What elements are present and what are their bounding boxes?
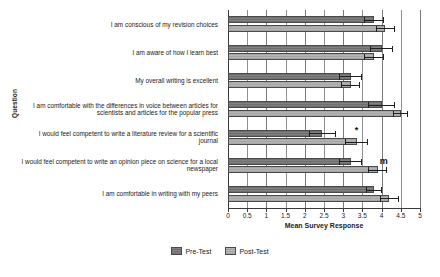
legend-swatch-post-test [225, 247, 236, 255]
error-bar [370, 48, 393, 49]
bar-pre-test [228, 186, 374, 193]
bar-post-test [228, 195, 389, 202]
x-tick-label: 5 [408, 212, 432, 219]
error-bar [309, 133, 336, 134]
legend-swatch-pre-test [171, 247, 182, 255]
figure-caption [6, 268, 434, 277]
bar-pre-test [228, 73, 351, 80]
bar-post-test [228, 138, 357, 145]
category-label: I would feel competent to write a litera… [18, 130, 218, 145]
error-bar [368, 170, 387, 171]
error-bar [368, 105, 395, 106]
legend-item-post-test[interactable]: Post-Test [225, 247, 268, 255]
bar-post-test [228, 81, 351, 88]
legend-label-pre-test: Pre-Test [185, 248, 211, 255]
category-label: I would feel competent to write an opini… [18, 158, 218, 173]
annotation-asterisk: * [355, 126, 359, 135]
chart-legend: Pre-Test Post-Test [0, 247, 440, 255]
error-bar [345, 142, 368, 143]
bar-post-test [228, 110, 401, 117]
y-axis-title: Question [11, 64, 18, 144]
error-bar [376, 28, 395, 29]
category-label: I am conscious of my revision choices [18, 21, 218, 28]
category-label: My overall writing is excellent [18, 77, 218, 84]
category-label: I am aware of how I learn best [18, 49, 218, 56]
bar-pre-test [228, 45, 382, 52]
x-axis-title: Mean Survey Response [228, 222, 420, 229]
error-bar [380, 198, 399, 199]
legend-item-pre-test[interactable]: Pre-Test [171, 247, 211, 255]
annotation-marginal: m [380, 157, 388, 166]
error-bar [366, 190, 381, 191]
bar-pre-test [228, 158, 351, 165]
error-bar [393, 113, 408, 114]
bar-pre-test [228, 16, 374, 23]
category-label: I am comfortable with the differences in… [18, 102, 218, 117]
error-bar [364, 20, 383, 21]
bar-post-test [228, 25, 385, 32]
error-bar [339, 161, 362, 162]
figure-bar-chart: Question 00.511.522.533.544.55 Mean Surv… [0, 0, 440, 277]
gridline [401, 10, 402, 208]
bar-post-test [228, 53, 374, 60]
error-bar [341, 85, 360, 86]
gridline [420, 10, 421, 208]
bar-post-test [228, 166, 378, 173]
error-bar [339, 76, 362, 77]
bar-pre-test [228, 101, 382, 108]
category-label: I am comfortable in writing with my peer… [18, 190, 218, 197]
error-bar [364, 57, 383, 58]
legend-label-post-test: Post-Test [239, 248, 268, 255]
